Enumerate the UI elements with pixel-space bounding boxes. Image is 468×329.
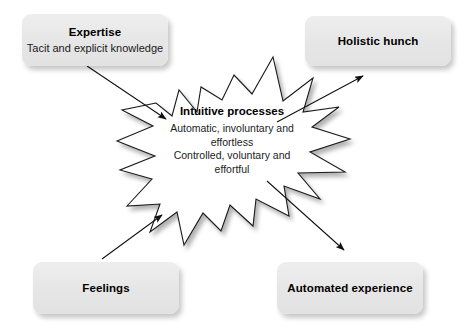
node-automated-experience[interactable]: Automated experience [277, 262, 423, 314]
node-holistic-hunch-title: Holistic hunch [338, 34, 419, 49]
node-feelings-title: Feelings [82, 281, 129, 296]
intuitive-processes-burst [117, 57, 350, 245]
node-feelings[interactable]: Feelings [33, 262, 179, 314]
node-expertise-subtitle: Tacit and explicit knowledge [27, 41, 163, 56]
node-expertise[interactable]: Expertise Tacit and explicit knowledge [22, 14, 168, 66]
arrow-feelings-to-center [102, 215, 162, 259]
node-holistic-hunch[interactable]: Holistic hunch [305, 16, 451, 66]
node-automated-experience-title: Automated experience [287, 281, 412, 296]
diagram-canvas: Intuitive processes Automatic, involunta… [0, 0, 468, 329]
node-expertise-title: Expertise [69, 25, 122, 40]
